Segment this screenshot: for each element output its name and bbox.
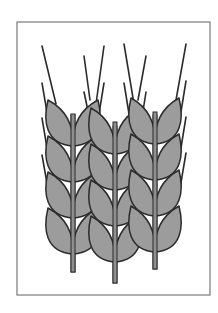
stem-front (71, 114, 75, 272)
stem-front (113, 122, 117, 283)
stem-front (153, 112, 157, 269)
wheat-illustration (0, 0, 218, 313)
right-ear (129, 98, 181, 269)
